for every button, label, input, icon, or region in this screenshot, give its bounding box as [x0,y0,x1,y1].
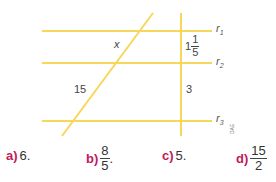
label-1-1-5: 1 1 5 [185,34,199,58]
option-a[interactable]: a) 6. [6,148,30,163]
mixed-fraction: 1 5 [191,34,199,58]
label-3: 3 [186,84,192,95]
fraction: 8 5 [100,144,109,172]
label-x: x [114,39,120,50]
label-r3: r3 [216,113,224,126]
label-r2: r2 [216,56,224,69]
option-c[interactable]: c) 5. [162,148,186,163]
option-b[interactable]: b) 8 5 . [86,144,113,172]
label-r1: r1 [216,23,224,36]
parallel-lines-figure [0,0,276,144]
credit-dae: DAE [229,124,235,134]
answer-options: a) 6. b) 8 5 . c) 5. d) 15 2 [0,144,276,182]
option-d[interactable]: d) 15 2 [236,144,267,172]
label-15: 15 [74,84,86,95]
fraction: 15 2 [250,144,266,172]
